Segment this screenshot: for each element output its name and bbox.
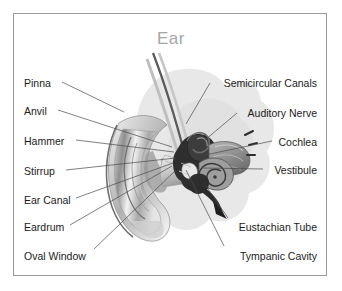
label-ear-canal: Ear Canal (24, 195, 71, 206)
label-semicircular-canals: Semicircular Canals (224, 78, 317, 89)
label-cochlea: Cochlea (278, 137, 317, 148)
label-oval-window: Oval Window (24, 251, 86, 262)
label-vestibule: Vestibule (274, 165, 317, 176)
label-stirrup: Stirrup (24, 166, 55, 177)
page-title: Ear (0, 29, 342, 49)
label-tympanic-cavity: Tympanic Cavity (240, 251, 317, 262)
label-eardrum: Eardrum (24, 222, 64, 233)
ear-diagram-page: Ear Pinna Anvil Hammer Stirrup Ear Canal… (0, 0, 342, 291)
label-hammer: Hammer (24, 136, 64, 147)
label-eustachian-tube: Eustachian Tube (239, 222, 317, 233)
label-pinna: Pinna (24, 78, 51, 89)
label-auditory-nerve: Auditory Nerve (248, 108, 317, 119)
label-anvil: Anvil (24, 106, 47, 117)
